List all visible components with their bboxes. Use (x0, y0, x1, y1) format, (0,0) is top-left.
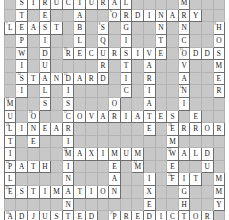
letter-cell[interactable]: 12S (16, 72, 28, 85)
letter-cell[interactable]: 10R (62, 47, 74, 60)
letter-cell[interactable]: G (178, 186, 190, 199)
letter-cell[interactable]: A (132, 110, 144, 123)
letter-cell[interactable]: S (167, 110, 179, 123)
letter-cell[interactable]: O (97, 186, 109, 199)
letter-cell[interactable]: T (16, 9, 28, 22)
letter-cell[interactable]: 22P (4, 160, 16, 173)
letter-cell[interactable]: G (120, 22, 132, 35)
letter-cell[interactable]: M (213, 60, 225, 73)
letter-cell[interactable]: 7L (4, 22, 16, 35)
letter-cell[interactable]: A (39, 72, 51, 85)
letter-cell[interactable]: I (16, 123, 28, 136)
letter-cell[interactable]: D (132, 9, 144, 22)
letter-cell[interactable]: O (190, 211, 202, 220)
letter-cell[interactable]: E (109, 160, 121, 173)
letter-cell[interactable]: A (16, 160, 28, 173)
letter-cell[interactable]: R (97, 60, 109, 73)
letter-cell[interactable]: X (143, 186, 155, 199)
letter-cell[interactable]: A (51, 123, 63, 136)
letter-cell[interactable]: 3T (74, 0, 86, 9)
letter-cell[interactable]: I (16, 85, 28, 98)
letter-cell[interactable]: A (74, 148, 86, 161)
letter-cell[interactable]: J (28, 211, 40, 220)
letter-cell[interactable]: E (74, 47, 86, 60)
letter-cell[interactable]: I (143, 9, 155, 22)
letter-cell[interactable]: S (51, 211, 63, 220)
letter-cell[interactable]: M (132, 148, 144, 161)
letter-cell[interactable]: 27P (109, 211, 121, 220)
letter-cell[interactable]: R (190, 123, 202, 136)
letter-cell[interactable]: I (16, 60, 28, 73)
letter-cell[interactable]: I (39, 34, 51, 47)
letter-cell[interactable]: 16O (28, 110, 40, 123)
letter-cell[interactable]: R (213, 85, 225, 98)
letter-cell[interactable]: 21W (167, 148, 179, 161)
letter-cell[interactable]: R (120, 9, 132, 22)
letter-cell[interactable]: I (155, 211, 167, 220)
letter-cell[interactable]: W (16, 47, 28, 60)
letter-cell[interactable]: H (39, 160, 51, 173)
letter-cell[interactable]: T (51, 22, 63, 35)
letter-cell[interactable]: S (120, 47, 132, 60)
letter-cell[interactable]: I (4, 148, 16, 161)
letter-cell[interactable]: I (120, 72, 132, 85)
letter-cell[interactable]: A (178, 72, 190, 85)
letter-cell[interactable]: U (51, 0, 63, 9)
letter-cell[interactable]: I (143, 85, 155, 98)
letter-cell[interactable]: I (86, 186, 98, 199)
letter-cell[interactable]: T (190, 173, 202, 186)
letter-cell[interactable]: R (97, 0, 109, 9)
letter-cell[interactable]: 23M (132, 160, 144, 173)
letter-cell[interactable]: A (28, 22, 40, 35)
letter-cell[interactable]: U (201, 160, 213, 173)
letter-cell[interactable]: U (86, 0, 98, 9)
letter-cell[interactable]: 11O (178, 47, 190, 60)
letter-cell[interactable]: L (39, 85, 51, 98)
letter-cell[interactable]: R (109, 110, 121, 123)
letter-cell[interactable]: I (62, 85, 74, 98)
letter-cell[interactable]: N (155, 22, 167, 35)
letter-cell[interactable]: D (16, 211, 28, 220)
letter-cell[interactable]: A (143, 60, 155, 73)
letter-cell[interactable]: R (143, 72, 155, 85)
letter-cell[interactable]: E (190, 110, 202, 123)
letter-cell[interactable]: B (74, 22, 86, 35)
letter-cell[interactable]: M (167, 135, 179, 148)
letter-cell[interactable]: R (120, 211, 132, 220)
letter-cell[interactable]: I (178, 173, 190, 186)
letter-cell[interactable]: I (120, 34, 132, 47)
letter-cell[interactable]: 6O (109, 9, 121, 22)
letter-cell[interactable]: I (62, 160, 74, 173)
letter-cell[interactable]: E (132, 211, 144, 220)
letter-cell[interactable]: 5M (178, 0, 190, 9)
letter-cell[interactable]: I (39, 186, 51, 199)
letter-cell[interactable]: T (28, 160, 40, 173)
letter-cell[interactable]: 25E (4, 186, 16, 199)
letter-cell[interactable]: 18L (4, 123, 16, 136)
letter-cell[interactable]: 14N (178, 85, 190, 98)
letter-cell[interactable]: L (190, 148, 202, 161)
letter-cell[interactable]: 13D (62, 72, 74, 85)
letter-cell[interactable]: X (86, 148, 98, 161)
letter-cell[interactable]: C (86, 47, 98, 60)
letter-cell[interactable]: N (62, 173, 74, 186)
letter-cell[interactable]: C (178, 34, 190, 47)
crossword-grid[interactable]: 1ST2RUC3TURA4L5MTEA6ORDINARY7LEASTB8SGNN… (4, 0, 225, 220)
letter-cell[interactable]: O (213, 34, 225, 47)
letter-cell[interactable]: C (167, 211, 179, 220)
letter-cell[interactable]: 2R (39, 0, 51, 9)
letter-cell[interactable]: U (97, 47, 109, 60)
letter-cell[interactable]: L (4, 173, 16, 186)
letter-cell[interactable]: I (178, 97, 190, 110)
letter-cell[interactable]: R (213, 123, 225, 136)
letter-cell[interactable]: V (86, 110, 98, 123)
letter-cell[interactable]: E (39, 123, 51, 136)
letter-cell[interactable]: N (62, 198, 74, 211)
letter-cell[interactable]: D (190, 47, 202, 60)
letter-cell[interactable]: 1S (16, 0, 28, 9)
letter-cell[interactable]: L (74, 34, 86, 47)
letter-cell[interactable]: A (143, 97, 155, 110)
letter-cell[interactable]: A (109, 173, 121, 186)
letter-cell[interactable]: H (178, 198, 190, 211)
letter-cell[interactable]: I (97, 148, 109, 161)
